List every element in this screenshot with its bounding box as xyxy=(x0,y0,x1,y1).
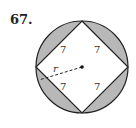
center-point xyxy=(80,65,84,69)
side-label-bottom-left: 7 xyxy=(60,81,66,92)
side-label-bottom-right: 7 xyxy=(94,81,100,92)
side-label-top-right: 7 xyxy=(94,44,100,55)
inscribed-square-diagram: 7 7 7 7 r xyxy=(0,0,136,128)
side-label-top-left: 7 xyxy=(60,44,66,55)
